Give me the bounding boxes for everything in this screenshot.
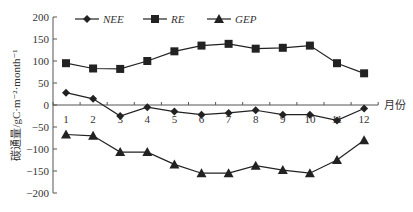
square-marker — [279, 44, 287, 52]
x-tick-label: 1 — [63, 113, 69, 125]
y-tick-label: −50 — [32, 121, 50, 133]
square-marker — [333, 59, 341, 67]
triangle-marker — [169, 159, 179, 168]
square-marker — [360, 69, 368, 77]
square-marker — [89, 64, 97, 72]
legend-label: RE — [170, 13, 185, 25]
legend-item-gep: GEP — [207, 13, 257, 25]
square-marker — [143, 57, 151, 65]
square-marker — [252, 45, 260, 53]
diamond-marker — [360, 105, 368, 113]
square-marker — [170, 47, 178, 55]
series-gep — [61, 129, 369, 177]
series-re — [62, 40, 368, 77]
triangle-marker — [251, 161, 261, 170]
triangle-marker — [332, 155, 342, 164]
diamond-marker — [143, 103, 151, 111]
x-tick-label: 4 — [145, 113, 151, 125]
y-tick-label: −150 — [26, 165, 49, 177]
y-tick-label: 0 — [44, 99, 50, 111]
y-tick-label: 150 — [33, 33, 50, 45]
triangle-marker — [359, 135, 369, 144]
y-tick-label: 100 — [33, 55, 50, 67]
legend-label: GEP — [235, 13, 257, 25]
triangle-marker — [61, 129, 71, 138]
square-marker — [306, 42, 314, 50]
y-tick-label: −100 — [26, 143, 49, 155]
square-marker — [62, 59, 70, 67]
legend-label: NEE — [102, 13, 124, 25]
diamond-marker — [89, 95, 97, 103]
diamond-marker — [62, 89, 70, 97]
x-tick-label: 2 — [90, 113, 96, 125]
square-marker — [198, 42, 206, 50]
legend-item-nee: NEE — [75, 13, 124, 25]
legend: NEEREGEP — [75, 13, 257, 25]
square-marker — [151, 15, 159, 23]
y-axis: 200150100500−50−100−150−200 — [26, 11, 57, 199]
y-tick-label: −200 — [26, 187, 49, 199]
y-axis-title: 碳通量/gC·m⁻²·month⁻¹ — [9, 49, 22, 160]
x-tick-label: 8 — [253, 113, 259, 125]
series-nee — [62, 89, 368, 125]
y-tick-label: 200 — [33, 11, 50, 23]
y-tick-label: 50 — [38, 77, 50, 89]
x-tick-label: 12 — [359, 113, 370, 125]
series-group — [61, 40, 369, 177]
square-marker — [225, 40, 233, 48]
x-axis-title: 月份 — [384, 99, 406, 111]
square-marker — [116, 65, 124, 73]
diamond-marker — [83, 15, 91, 23]
carbon-flux-chart: 200150100500−50−100−150−200 123456789101… — [0, 0, 413, 212]
legend-item-re: RE — [143, 13, 185, 25]
